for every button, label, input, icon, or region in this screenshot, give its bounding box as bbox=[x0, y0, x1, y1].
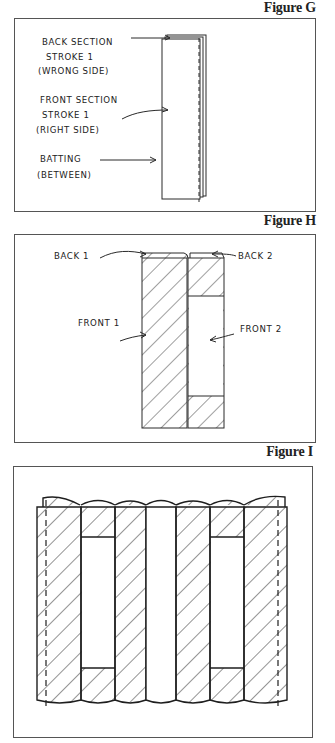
figure-i-drawing bbox=[0, 0, 335, 743]
